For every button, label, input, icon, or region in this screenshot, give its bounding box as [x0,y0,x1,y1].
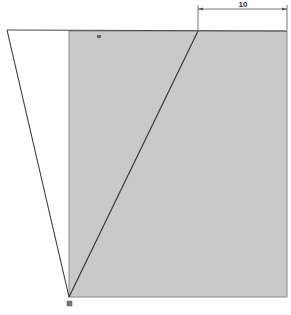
sketch-canvas[interactable]: 10 [0,0,291,315]
constraint-marker-icon[interactable] [97,35,101,38]
dimension-value[interactable]: 10 [239,0,248,9]
left-diagonal-line[interactable] [7,30,69,297]
top-edge-line[interactable] [7,30,287,31]
vertex-point-icon[interactable] [67,301,72,306]
dimension-arrow-left-icon [198,8,203,11]
dimension-arrow-right-icon [282,8,287,11]
